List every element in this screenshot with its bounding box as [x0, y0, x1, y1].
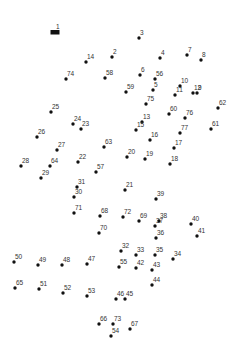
- dot: [157, 219, 160, 222]
- dot-label: 23: [82, 120, 90, 127]
- dot: [48, 164, 51, 167]
- dot-point-58: 58: [103, 69, 113, 80]
- dot: [148, 138, 151, 141]
- dot: [85, 262, 88, 265]
- dot-point-49: 49: [36, 256, 46, 267]
- dot: [13, 286, 16, 289]
- dot: [98, 214, 101, 217]
- dot: [137, 36, 140, 39]
- dot-point-77: 77: [178, 124, 188, 135]
- dot-point-64: 64: [48, 157, 58, 168]
- dot-point-16: 16: [148, 131, 158, 142]
- dot-point-66: 66: [97, 315, 107, 326]
- dot-label: 30: [75, 188, 83, 195]
- dot: [150, 283, 153, 286]
- dot: [172, 146, 175, 149]
- dot-label: 74: [67, 70, 75, 77]
- dot: [94, 170, 97, 173]
- dot: [168, 162, 171, 165]
- dot: [137, 219, 140, 222]
- dot-label: 54: [112, 327, 120, 334]
- dot-label: 66: [100, 315, 108, 322]
- dot-label: 53: [88, 287, 96, 294]
- dot-label: 18: [171, 155, 179, 162]
- dot-label: 25: [52, 103, 60, 110]
- dot: [97, 231, 100, 234]
- dot-label: 43: [153, 261, 161, 268]
- dot: [216, 106, 219, 109]
- dot-label: 4: [161, 49, 165, 56]
- dot-label: 63: [105, 138, 113, 145]
- dot: [49, 110, 52, 113]
- dot: [111, 322, 114, 325]
- dot-label: 28: [22, 157, 30, 164]
- dot-label: 13: [143, 113, 151, 120]
- dot: [167, 112, 170, 115]
- dot-label: 47: [88, 255, 96, 262]
- dot: [12, 260, 15, 263]
- dot-point-74: 74: [64, 70, 74, 81]
- dot-point-54: 54: [109, 327, 119, 338]
- dot-label: 6: [141, 66, 145, 73]
- dot-label: 10: [181, 77, 189, 84]
- dot: [72, 211, 75, 214]
- dot: [19, 164, 22, 167]
- dot-point-34: 34: [171, 250, 181, 261]
- dot-label: 44: [153, 276, 161, 283]
- dot-point-21: 21: [123, 181, 133, 192]
- dot-point-47: 47: [85, 255, 95, 266]
- dot: [183, 116, 186, 119]
- dot-label: 21: [126, 181, 134, 188]
- dot-label: 1: [56, 23, 60, 30]
- dot-point-51: 51: [37, 280, 47, 291]
- dot-label: 5: [154, 81, 158, 88]
- dot: [134, 253, 137, 256]
- dot: [35, 135, 38, 138]
- start-marker: [51, 30, 60, 35]
- dot-point-1: 1: [51, 23, 61, 35]
- dot: [55, 148, 58, 151]
- dot: [71, 122, 74, 125]
- dot-point-29: 29: [39, 169, 49, 180]
- dot-label: 38: [160, 212, 168, 219]
- dot: [124, 90, 127, 93]
- dot: [123, 297, 126, 300]
- dot-label: 42: [137, 259, 145, 266]
- dot: [199, 58, 202, 61]
- dot: [195, 234, 198, 237]
- dot-label: 20: [128, 148, 136, 155]
- dot-label: 72: [124, 208, 132, 215]
- dot-label: 36: [157, 229, 165, 236]
- dot-label: 49: [39, 256, 47, 263]
- dot: [110, 55, 113, 58]
- dot-point-63: 63: [102, 138, 112, 149]
- dot-point-75: 75: [144, 95, 154, 106]
- dot-label: 51: [40, 280, 48, 287]
- dots-layer: 1234567891011121314151617181920212223242…: [12, 23, 226, 338]
- dot: [178, 131, 181, 134]
- dot-point-65: 65: [13, 279, 23, 290]
- dot-label: 76: [186, 109, 194, 116]
- dot: [173, 93, 176, 96]
- dot-point-61: 61: [209, 120, 219, 131]
- dot-point-72: 72: [121, 208, 131, 219]
- dot-label: 57: [97, 163, 105, 170]
- dot-label: 22: [79, 153, 87, 160]
- dot-point-33: 33: [134, 246, 144, 257]
- dot-point-22: 22: [76, 153, 86, 164]
- dot-label: 7: [188, 46, 192, 53]
- dot-label: 70: [100, 224, 108, 231]
- dot-label: 24: [74, 115, 82, 122]
- dot-label: 65: [16, 279, 24, 286]
- dot-label: 39: [157, 190, 165, 197]
- dot-point-15: 15: [134, 121, 144, 132]
- dot-label: 67: [131, 320, 139, 327]
- dot: [117, 265, 120, 268]
- dot: [134, 266, 137, 269]
- dot: [114, 297, 117, 300]
- dot: [64, 77, 67, 80]
- dot-label: 34: [174, 250, 182, 257]
- dot-label: 15: [137, 121, 145, 128]
- dot: [79, 127, 82, 130]
- dot: [171, 257, 174, 260]
